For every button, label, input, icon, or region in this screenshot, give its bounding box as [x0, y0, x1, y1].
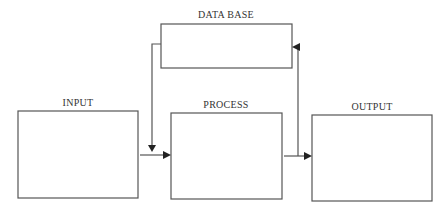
- process-label: PROCESS: [203, 99, 248, 110]
- process-to-database-connector: [298, 47, 299, 156]
- database-to-process-connector: [152, 44, 161, 146]
- arrowhead-right-icon: [163, 151, 171, 159]
- io-process-diagram: DATA BASE INPUT PROCESS OUTPUT: [0, 0, 445, 212]
- arrowhead-down-icon: [148, 145, 156, 152]
- output-box: [312, 115, 432, 201]
- arrowhead-right-icon: [304, 152, 312, 160]
- output-label: OUTPUT: [351, 101, 392, 112]
- input-label: INPUT: [63, 97, 94, 108]
- input-box: [18, 111, 138, 198]
- database-box: [161, 24, 292, 68]
- database-label: DATA BASE: [198, 9, 254, 20]
- process-box: [171, 113, 282, 199]
- arrowhead-left-icon: [292, 43, 300, 51]
